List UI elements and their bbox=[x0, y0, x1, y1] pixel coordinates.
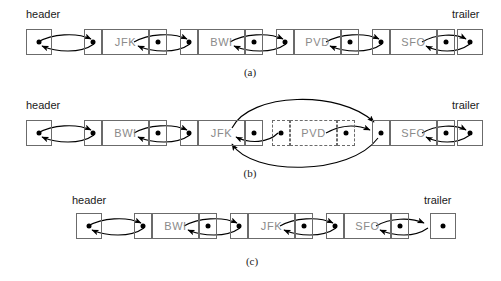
header-node-b[interactable] bbox=[26, 120, 52, 146]
pointer-dot bbox=[444, 131, 449, 136]
pointer-dot bbox=[441, 224, 446, 229]
figure-canvas: header JFK BWI PVD bbox=[0, 0, 501, 281]
prev-pointer-cell[interactable] bbox=[372, 120, 390, 146]
pointer-dot bbox=[444, 40, 449, 45]
next-pointer-cell[interactable] bbox=[149, 29, 167, 55]
node-label: JFK bbox=[211, 128, 232, 139]
next-pointer-cell[interactable] bbox=[337, 120, 355, 146]
pointer-dot bbox=[206, 224, 211, 229]
node-label: BWI bbox=[114, 128, 137, 139]
element-cell: BWI bbox=[102, 120, 149, 146]
pointer-dot bbox=[187, 40, 192, 45]
pointer-dot bbox=[252, 40, 257, 45]
pointer-dot bbox=[379, 40, 384, 45]
element-cell: SFO bbox=[390, 29, 437, 55]
pointer-dot bbox=[302, 224, 307, 229]
caption-c: (c) bbox=[222, 255, 282, 267]
header-node-a[interactable] bbox=[26, 29, 52, 55]
next-pointer-cell[interactable] bbox=[245, 29, 263, 55]
trailer-node-a[interactable] bbox=[457, 29, 483, 55]
next-pointer-cell[interactable] bbox=[437, 120, 455, 146]
prev-pointer-cell[interactable] bbox=[84, 120, 102, 146]
list-node-pvd-removed[interactable]: PVD bbox=[272, 120, 355, 146]
node-label: JFK bbox=[115, 37, 136, 48]
pointer-dot bbox=[333, 224, 338, 229]
node-label: PVD bbox=[305, 37, 329, 48]
prev-pointer-cell[interactable] bbox=[272, 120, 290, 146]
header-label-a: header bbox=[26, 8, 60, 20]
caption-b: (b) bbox=[220, 167, 280, 179]
list-node-bwi-a[interactable]: BWI bbox=[180, 29, 263, 55]
pointer-dot bbox=[344, 131, 349, 136]
pointer-dot bbox=[237, 224, 242, 229]
pointer-dot bbox=[187, 131, 192, 136]
element-cell: JFK bbox=[198, 120, 245, 146]
node-label: BWI bbox=[210, 37, 233, 48]
header-node-c[interactable] bbox=[76, 213, 102, 239]
pointer-dot bbox=[283, 40, 288, 45]
element-cell: JFK bbox=[248, 213, 295, 239]
node-label: SFO bbox=[355, 221, 379, 232]
list-node-sfo-b[interactable]: SFO bbox=[372, 120, 455, 146]
next-pointer-cell[interactable] bbox=[199, 213, 217, 239]
trailer-node-c[interactable] bbox=[430, 213, 456, 239]
pointer-dot bbox=[37, 131, 42, 136]
element-cell: BWI bbox=[152, 213, 199, 239]
element-cell: PVD bbox=[294, 29, 341, 55]
next-pointer-cell[interactable] bbox=[391, 213, 409, 239]
next-pointer-cell[interactable] bbox=[437, 29, 455, 55]
pointer-dot bbox=[91, 40, 96, 45]
node-label: SFO bbox=[401, 128, 425, 139]
element-cell: BWI bbox=[198, 29, 245, 55]
list-node-jfk-c[interactable]: JFK bbox=[230, 213, 313, 239]
pointer-dot bbox=[37, 40, 42, 45]
prev-pointer-cell[interactable] bbox=[326, 213, 344, 239]
node-label: PVD bbox=[301, 128, 325, 139]
next-pointer-cell[interactable] bbox=[295, 213, 313, 239]
list-node-sfo-a[interactable]: SFO bbox=[372, 29, 455, 55]
header-label-c: header bbox=[72, 194, 106, 206]
pointer-dot bbox=[156, 40, 161, 45]
next-pointer-cell[interactable] bbox=[149, 120, 167, 146]
list-node-bwi-c[interactable]: BWI bbox=[134, 213, 217, 239]
prev-pointer-cell[interactable] bbox=[372, 29, 390, 55]
pointer-dot bbox=[468, 131, 473, 136]
prev-pointer-cell[interactable] bbox=[180, 29, 198, 55]
element-cell: SFO bbox=[390, 120, 437, 146]
pointer-dot bbox=[87, 224, 92, 229]
pointer-dot bbox=[91, 131, 96, 136]
node-label: BWI bbox=[164, 221, 187, 232]
caption-a: (a) bbox=[220, 66, 280, 78]
element-cell: JFK bbox=[102, 29, 149, 55]
node-label: SFO bbox=[401, 37, 425, 48]
prev-pointer-cell[interactable] bbox=[180, 120, 198, 146]
pointer-dot bbox=[379, 131, 384, 136]
trailer-node-b[interactable] bbox=[457, 120, 483, 146]
pointer-dot bbox=[279, 131, 284, 136]
prev-pointer-cell[interactable] bbox=[276, 29, 294, 55]
pointer-dot bbox=[468, 40, 473, 45]
prev-pointer-cell[interactable] bbox=[134, 213, 152, 239]
list-node-pvd-a[interactable]: PVD bbox=[276, 29, 359, 55]
node-label: JFK bbox=[261, 221, 282, 232]
list-node-jfk-b[interactable]: JFK bbox=[180, 120, 263, 146]
list-node-bwi-b[interactable]: BWI bbox=[84, 120, 167, 146]
pointer-dot bbox=[156, 131, 161, 136]
prev-pointer-cell[interactable] bbox=[84, 29, 102, 55]
trailer-label-b: trailer bbox=[452, 99, 480, 111]
header-label-b: header bbox=[26, 99, 60, 111]
pointer-dot bbox=[398, 224, 403, 229]
element-cell: SFO bbox=[344, 213, 391, 239]
next-pointer-cell[interactable] bbox=[245, 120, 263, 146]
pointer-dot bbox=[348, 40, 353, 45]
list-node-sfo-c[interactable]: SFO bbox=[326, 213, 409, 239]
trailer-label-c: trailer bbox=[424, 194, 452, 206]
list-node-jfk-a[interactable]: JFK bbox=[84, 29, 167, 55]
pointer-dot bbox=[141, 224, 146, 229]
next-pointer-cell[interactable] bbox=[341, 29, 359, 55]
element-cell: PVD bbox=[290, 120, 337, 146]
prev-pointer-cell[interactable] bbox=[230, 213, 248, 239]
trailer-label-a: trailer bbox=[452, 8, 480, 20]
pointer-dot bbox=[252, 131, 257, 136]
